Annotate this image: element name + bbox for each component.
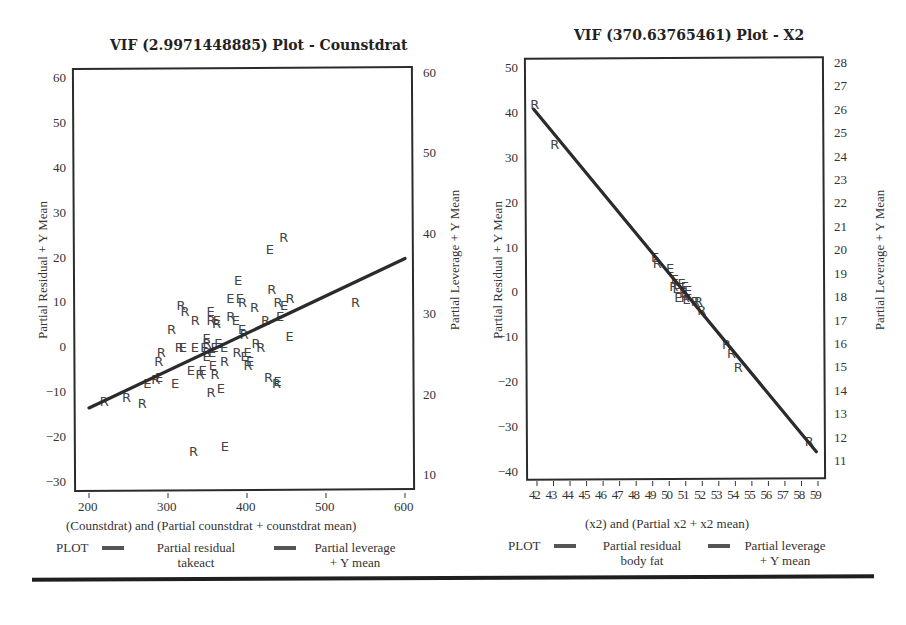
residual-marker: R [167, 322, 176, 337]
leverage-marker: E [266, 242, 274, 257]
residual-marker: R [251, 336, 260, 351]
x-tick-label: 57 [777, 487, 788, 503]
y2-tick-label: 14 [834, 383, 847, 399]
x-tick-label: 43 [546, 487, 557, 503]
y-tick-label: 20 [505, 195, 518, 211]
regression-line [89, 258, 405, 407]
y2-tick-label: 20 [834, 242, 847, 258]
y2-tick-label: 15 [834, 359, 847, 375]
residual-marker: R [220, 354, 229, 369]
y-tick-label: −30 [498, 419, 518, 435]
y2-tick-label: 19 [834, 266, 847, 282]
x-tick-label: 600 [394, 499, 414, 515]
y-tick-label: 0 [60, 339, 67, 355]
y2-tick-label: 11 [834, 453, 847, 469]
y2-tick-label: 21 [834, 219, 847, 235]
left-legend-prefix: PLOT [56, 540, 89, 555]
y-tick-label: −30 [46, 474, 66, 490]
residual-marker: R [250, 300, 259, 315]
left-x-axis-label: (Counstdrat) and (Partial counstdrat + c… [66, 518, 356, 534]
y2-tick-label: 28 [834, 55, 847, 71]
x-tick-label: 45 [579, 487, 590, 503]
y2-tick-label: 26 [834, 102, 847, 118]
y2-tick-label: 12 [834, 430, 847, 446]
left-legend: PLOT Partial residual takeact Partial le… [56, 540, 416, 580]
y-tick-label: 40 [53, 160, 66, 176]
x-tick-label: 46 [595, 487, 606, 503]
x-tick-label: 400 [236, 499, 256, 515]
y-tick-label: 50 [53, 115, 66, 131]
x-tick-label: 52 [694, 487, 705, 503]
x-tick-label: 54 [727, 487, 738, 503]
leverage-marker: E [199, 363, 207, 378]
leverage-marker: E [187, 363, 195, 378]
y2-tick-label: 23 [834, 172, 847, 188]
y2-tick-label: 27 [834, 78, 847, 94]
y2-tick-label: 40 [423, 226, 436, 242]
left-legend-residual-label: Partial residual takeact [136, 540, 256, 570]
y-tick-label: 20 [53, 250, 66, 266]
y2-tick-label: 20 [423, 387, 436, 403]
right-legend-prefix: PLOT [508, 538, 541, 553]
x-tick-label: 48 [628, 487, 639, 503]
x-tick-label: 300 [157, 499, 177, 515]
x-tick-label: 200 [78, 499, 98, 515]
leverage-marker: E [221, 439, 229, 454]
residual-marker: R [191, 313, 200, 328]
y2-tick-label: 60 [423, 65, 436, 81]
leverage-marker: E [285, 329, 293, 344]
y2-tick-label: 17 [834, 313, 847, 329]
y2-tick-label: 16 [834, 336, 847, 352]
x-tick-label: 44 [562, 487, 573, 503]
y-tick-label: 60 [53, 70, 66, 86]
y2-tick-label: 50 [423, 145, 436, 161]
leverage-marker: E [171, 376, 179, 391]
x-tick-label: 42 [529, 487, 540, 503]
x-tick-label: 500 [315, 499, 335, 515]
left-y-axis-label: Partial Residual + Y Mean [35, 195, 51, 345]
x-tick-label: 56 [760, 487, 771, 503]
y-tick-label: −20 [46, 429, 66, 445]
y2-tick-label: 13 [834, 406, 847, 422]
y-tick-label: 50 [505, 60, 518, 76]
residual-marker: R [189, 444, 198, 459]
x-tick-label: 53 [711, 487, 722, 503]
x-tick-label: 47 [612, 487, 623, 503]
y2-tick-label: 18 [834, 289, 847, 305]
y-tick-label: −10 [46, 384, 66, 400]
y2-tick-label: 25 [834, 125, 847, 141]
y-tick-label: 0 [512, 284, 519, 300]
residual-marker: R [206, 385, 215, 400]
leverage-marker: E [226, 291, 234, 306]
y-tick-label: 40 [505, 105, 518, 121]
y2-tick-label: 30 [423, 306, 436, 322]
leverage-marker: E [179, 340, 187, 355]
residual-marker: R [138, 396, 147, 411]
right-legend-residual-label: Partial residual body fat [582, 538, 702, 568]
y2-tick-label: 24 [834, 149, 847, 165]
right-plot-title: VIF (370.63765461) Plot - X2 [574, 27, 804, 43]
y-tick-label: −20 [498, 374, 518, 390]
leverage-marker: E [234, 273, 242, 288]
right-legend-leverage-symbol [708, 544, 730, 548]
x-tick-label: 50 [661, 487, 672, 503]
y-tick-label: 30 [53, 205, 66, 221]
leverage-marker: E [213, 313, 221, 328]
right-legend-residual-symbol [554, 544, 576, 548]
x-tick-label: 59 [810, 487, 821, 503]
y-tick-label: −40 [498, 464, 518, 480]
y-tick-label: 30 [505, 150, 518, 166]
left-legend-leverage-label: Partial leverage + Y mean [300, 540, 410, 570]
left-legend-leverage-symbol [274, 546, 296, 550]
y2-tick-label: 10 [423, 467, 436, 483]
leverage-marker: E [217, 381, 225, 396]
left-legend-residual-symbol [102, 546, 124, 550]
leverage-marker: E [246, 354, 254, 369]
right-y-axis-label: Partial Residual + Y Mean [490, 190, 506, 350]
x-tick-label: 51 [678, 487, 689, 503]
right-x-axis-label: (x2) and (Partial x2 + x2 mean) [585, 516, 749, 532]
right-plot-frame [524, 56, 826, 481]
residual-marker: R [351, 295, 360, 310]
x-tick-label: 58 [793, 487, 804, 503]
x-tick-label: 55 [744, 487, 755, 503]
